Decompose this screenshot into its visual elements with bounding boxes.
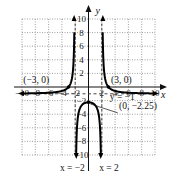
arrowhead-icon xyxy=(98,153,103,159)
point-label: (3, 0) xyxy=(111,75,132,86)
annotation-leader-line xyxy=(90,104,117,113)
y-tick-label: 8 xyxy=(79,28,84,38)
point-marker xyxy=(107,85,111,89)
x-axis-label: x xyxy=(160,89,166,100)
y-tick-label: −8 xyxy=(77,136,87,146)
y-tick-label: 10 xyxy=(77,14,87,24)
point-label: (0, −2.25) xyxy=(119,101,157,112)
arrowhead-icon xyxy=(72,15,77,21)
graph: xy−10−8−6−4−2246810108642−2−4−6−8−10(−3,… xyxy=(0,0,173,175)
y-tick-label: −6 xyxy=(77,123,87,133)
y-tick-label: 4 xyxy=(79,55,84,65)
point-marker xyxy=(87,101,91,105)
y-axis-label: y xyxy=(95,5,101,16)
y-tick-label: 6 xyxy=(79,41,84,51)
y-axis-arrow-icon xyxy=(86,5,92,12)
left-asymptote-label: x = −2 xyxy=(60,163,85,173)
horizontal-asymptote-label: y = −1 xyxy=(110,92,135,102)
y-tick-label: 2 xyxy=(79,68,84,78)
point-label: (−3, 0) xyxy=(23,75,49,86)
right-asymptote-label: x = 2 xyxy=(99,163,119,173)
arrowhead-icon xyxy=(100,15,105,21)
point-marker xyxy=(67,85,71,89)
